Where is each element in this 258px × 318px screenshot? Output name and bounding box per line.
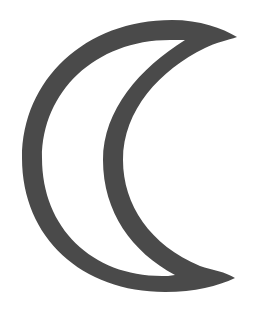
figure-canvas: Outlined crescent moon symbol (0, 0, 258, 318)
crescent-moon-icon (0, 0, 258, 318)
crescent-outline (22, 20, 237, 292)
